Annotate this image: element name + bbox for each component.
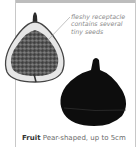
caption: Fruit Pear-shaped, up to 5cm <box>22 134 126 142</box>
whole-fig-image <box>0 0 139 147</box>
caption-text: Pear-shaped, up to 5cm <box>43 134 126 142</box>
caption-label: Fruit <box>22 134 41 142</box>
